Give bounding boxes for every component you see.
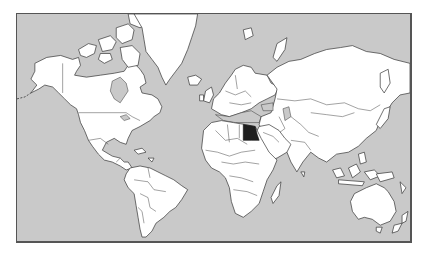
south-america [124, 166, 188, 237]
tasmania [376, 227, 382, 233]
iceland [188, 75, 202, 85]
egypt-highlight [243, 125, 259, 141]
madagascar [271, 182, 281, 204]
asia [259, 46, 410, 177]
map-canvas [17, 14, 410, 241]
australia [350, 184, 396, 225]
caribbean [134, 148, 154, 162]
world-map: Egypt [16, 13, 412, 243]
